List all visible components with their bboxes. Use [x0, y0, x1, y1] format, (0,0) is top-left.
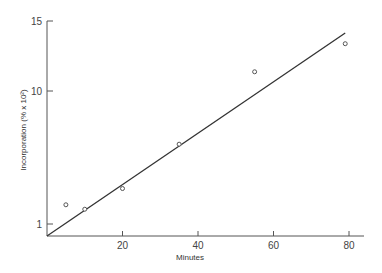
chart: 11015 20406080 Minutes Incorporation (% … [0, 0, 382, 273]
y-tick-label: 15 [31, 16, 43, 27]
y-tick-label: 1 [36, 219, 42, 230]
x-tick-label: 40 [192, 240, 204, 251]
x-ticks: 20406080 [117, 231, 355, 251]
data-point [343, 42, 347, 46]
x-axis-label: Minutes [176, 253, 204, 262]
data-point [121, 187, 125, 191]
y-axis-label: Incorporation (% x 10²) [19, 89, 28, 171]
data-point [83, 207, 87, 211]
y-tick-label: 10 [31, 86, 43, 97]
data-point [177, 142, 181, 146]
regression-line [47, 33, 345, 236]
x-tick-label: 60 [268, 240, 280, 251]
fit-line [47, 33, 345, 236]
x-tick-label: 20 [117, 240, 129, 251]
y-ticks: 11015 [31, 16, 53, 230]
data-point [253, 70, 257, 74]
x-tick-label: 80 [343, 240, 355, 251]
data-points [64, 42, 347, 212]
data-point [64, 203, 68, 207]
